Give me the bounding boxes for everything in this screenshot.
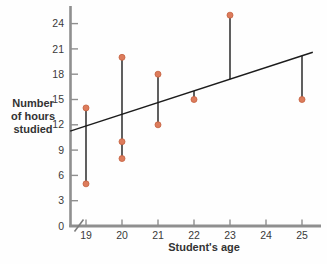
- data-point: [83, 181, 89, 187]
- y-tick-label: 18: [52, 68, 64, 80]
- data-point: [227, 12, 233, 18]
- data-point: [119, 156, 125, 162]
- scatter-figure: 0369121518212419202122232425 Number of h…: [0, 0, 327, 264]
- data-point: [191, 97, 197, 103]
- x-tick-label: 19: [80, 229, 92, 241]
- y-axis-label-line3: studied: [4, 123, 62, 136]
- y-tick-label: 24: [52, 17, 64, 29]
- x-tick-label: 23: [224, 229, 236, 241]
- y-axis-label: Number of hours studied: [4, 97, 62, 136]
- data-point: [119, 139, 125, 145]
- x-tick-label: 24: [260, 229, 272, 241]
- y-tick-label: 9: [58, 144, 64, 156]
- x-tick-label: 22: [188, 229, 200, 241]
- y-tick-label: 21: [52, 43, 64, 55]
- x-tick-label: 21: [152, 229, 164, 241]
- x-axis-label: Student's age: [138, 241, 270, 253]
- y-tick-label: 6: [58, 169, 64, 181]
- y-tick-label: 3: [58, 194, 64, 206]
- data-point: [155, 71, 161, 77]
- data-point: [83, 105, 89, 111]
- data-point: [299, 97, 305, 103]
- y-tick-label: 0: [58, 220, 64, 232]
- y-axis-label-line1: Number: [4, 97, 62, 110]
- y-axis-label-line2: of hours: [4, 110, 62, 123]
- data-point: [119, 54, 125, 60]
- x-tick-label: 20: [116, 229, 128, 241]
- x-tick-label: 25: [296, 229, 308, 241]
- data-point: [155, 122, 161, 128]
- regression-line: [70, 52, 313, 131]
